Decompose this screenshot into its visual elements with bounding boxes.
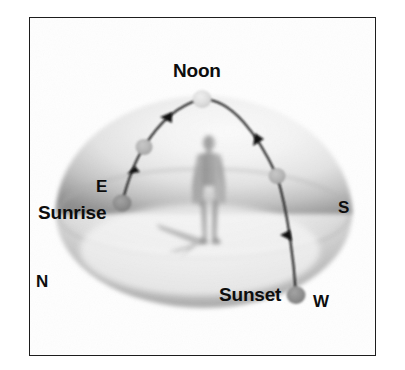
label-sunrise: Sunrise <box>38 202 106 224</box>
label-north: N <box>36 272 48 292</box>
sun-path-diagram: Noon Sunrise Sunset E S N W <box>0 0 405 370</box>
label-west: W <box>313 292 329 312</box>
label-east: E <box>96 177 107 197</box>
label-sunset: Sunset <box>219 284 281 306</box>
label-south: S <box>338 198 349 218</box>
label-noon: Noon <box>173 60 221 82</box>
scene-graphics <box>0 0 405 370</box>
